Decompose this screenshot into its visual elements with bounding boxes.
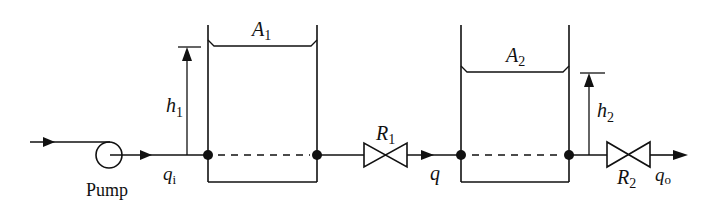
- h1-dimension: [178, 47, 201, 155]
- inlet-pipe: [30, 137, 110, 147]
- pipe-pump-to-tank1: [110, 150, 208, 160]
- valve-r2-icon: [607, 142, 650, 167]
- two-tank-system-diagram: Pump qi h1 A1 R1 q A2 h2 R2 qo: [0, 0, 703, 201]
- flow-arrow-q-icon: [421, 150, 434, 160]
- valve-r1: [364, 143, 407, 167]
- pipe-tank1-to-tank2: [317, 150, 461, 160]
- flow-label-qo: qo: [655, 164, 671, 187]
- pump-label: Pump: [86, 180, 128, 200]
- tank-1: [203, 25, 322, 182]
- tank2-water-level: [461, 66, 569, 72]
- resistance-label-r2: R2: [616, 166, 636, 191]
- outlet-arrow-icon: [673, 150, 688, 160]
- tank1-water-level: [208, 40, 317, 46]
- flow-label-qi: qi: [163, 163, 177, 187]
- resistance-label-r1: R1: [375, 122, 395, 147]
- outlet-pipe: [569, 142, 688, 167]
- h1-arrow-icon: [182, 47, 192, 61]
- area-label-a1: A1: [250, 18, 271, 43]
- inlet-arrow-icon: [43, 137, 55, 147]
- area-label-a2: A2: [504, 44, 525, 69]
- h2-arrow-icon: [584, 73, 594, 87]
- flow-arrow-qi-icon: [140, 150, 152, 160]
- valve-r1-icon: [364, 143, 407, 167]
- flow-label-q: q: [430, 162, 440, 185]
- level-label-h1: h1: [166, 94, 183, 120]
- level-label-h2: h2: [597, 99, 614, 125]
